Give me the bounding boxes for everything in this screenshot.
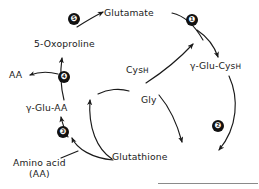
node-gamma-glu-cysh-prefix: γ-Glu-Cys	[190, 60, 236, 71]
node-glutamate: Glutamate	[104, 8, 154, 18]
arrow-step1-to-gamma-glu-cysh	[197, 30, 218, 57]
arrow-oxoproline-to-glutamate	[77, 12, 103, 27]
arrow-gamma-glu-cysh-to-glutathione	[219, 76, 235, 150]
node-5-oxoproline: 5-Oxoproline	[34, 39, 95, 49]
arrow-cysh-to-gamma-glu-cysh	[146, 44, 193, 83]
step-badge-2: ❷	[212, 120, 224, 132]
gamma-glutamyl-cycle-figure: Glutamate γ-Glu-CysH Glutathione γ-Glu-A…	[0, 0, 259, 189]
step-badge-4: ❹	[58, 71, 70, 83]
node-amino-acid-line2: (AA)	[29, 168, 50, 179]
page-baseline-rule	[158, 183, 258, 184]
node-cysh: CysH	[126, 65, 149, 76]
node-gamma-glu-cysh: γ-Glu-CysH	[190, 61, 241, 72]
node-amino-acid: Amino acid(AA)	[13, 157, 66, 179]
node-cysh-suffix: H	[143, 66, 149, 75]
step-badge-3: ❸	[57, 126, 69, 138]
step-badge-1: ❶	[186, 14, 198, 26]
arrow-glutathione-to-gamma-glu-aa	[72, 138, 113, 160]
node-gamma-glu-cysh-suffix: H	[236, 62, 242, 71]
arrow-glutathione-cycle-to-cysh	[90, 100, 112, 159]
arrow-gly-to-glutathione	[159, 95, 182, 142]
step-badge-5: ❺	[68, 13, 80, 25]
node-amino-acid-line1: Amino acid	[13, 157, 66, 168]
node-aa: AA	[9, 70, 22, 80]
arrow-step4-to-aa	[30, 72, 58, 75]
node-cysh-prefix: Cys	[126, 64, 143, 75]
node-glutathione: Glutathione	[112, 152, 167, 162]
node-gly: Gly	[141, 95, 157, 105]
node-gamma-glu-aa: γ-Glu-AA	[26, 103, 67, 113]
arrow-inner-cycle-top-link	[98, 89, 129, 94]
